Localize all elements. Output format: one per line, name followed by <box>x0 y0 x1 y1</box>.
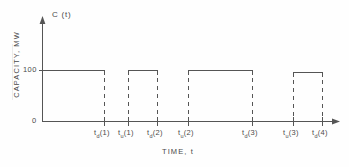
capacity-trace-transitions <box>105 70 323 121</box>
y-axis-title: CAPACITY, MW <box>12 27 21 103</box>
x-tick-label-tu3: tu(3) <box>283 128 299 139</box>
capacity-vs-time-figure: 100 0 C (t) CAPACITY, MW TIME, t td(1) t… <box>0 0 349 167</box>
x-tick-label-tu1: tu(1) <box>118 128 134 139</box>
tick-index: (1) <box>100 128 110 137</box>
capacity-trace-solid <box>42 71 323 73</box>
y-axis-arrowhead <box>40 16 46 24</box>
y-tick-label-100: 100 <box>23 65 37 74</box>
tick-index: (2) <box>153 128 163 137</box>
chart-canvas <box>0 0 349 167</box>
x-tick-label-td3: td(3) <box>242 128 258 139</box>
tick-index: (3) <box>289 128 299 137</box>
tick-index: (1) <box>124 128 134 137</box>
tick-index: (4) <box>318 128 328 137</box>
tick-index: (2) <box>184 128 194 137</box>
tick-index: (3) <box>248 128 258 137</box>
y-tick-label-0: 0 <box>32 116 37 125</box>
x-tick-label-td1: td(1) <box>94 128 110 139</box>
x-tick-label-tu2: tu(2) <box>178 128 194 139</box>
x-tick-label-td2: td(2) <box>147 128 163 139</box>
x-tick-label-td4: td(4) <box>312 128 328 139</box>
x-axis-title: TIME, t <box>162 147 194 156</box>
curve-label-ct: C (t) <box>52 10 72 19</box>
x-axis-arrowhead <box>332 119 340 125</box>
